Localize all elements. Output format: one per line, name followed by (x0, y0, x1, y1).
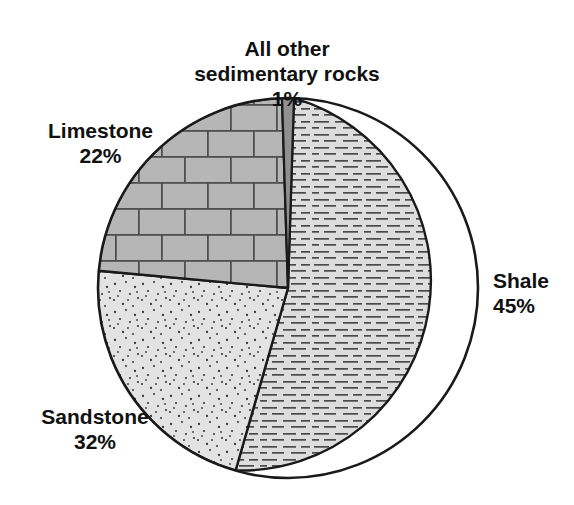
pie-label-limestone-name: Limestone (28, 118, 173, 143)
pie-label-limestone: Limestone 22% (28, 118, 173, 168)
pie-label-shale: Shale 45% (493, 268, 573, 318)
pie-chart-figure: All other sedimentary rocks 1% Limestone… (0, 0, 574, 505)
pie-label-limestone-value: 22% (28, 143, 173, 168)
pie-label-all-other-line1: All other (0, 36, 574, 61)
pie-label-all-other: All other sedimentary rocks 1% (0, 36, 574, 111)
pie-label-shale-name: Shale (493, 268, 573, 293)
pie-label-sandstone-name: Sandstone (20, 404, 170, 429)
pie-label-all-other-value: 1% (0, 86, 574, 111)
pie-label-shale-value: 45% (493, 293, 573, 318)
pie-label-sandstone-value: 32% (20, 429, 170, 454)
pie-label-all-other-line2: sedimentary rocks (0, 61, 574, 86)
pie-label-sandstone: Sandstone 32% (20, 404, 170, 454)
